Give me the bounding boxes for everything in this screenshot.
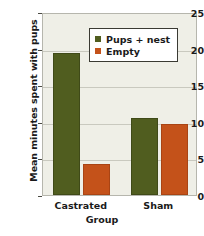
legend-label: Empty [106,46,140,57]
legend-label: Pups + nest [106,34,170,45]
x-category-label: Sham [143,200,173,211]
legend-item-empty: Empty [95,45,170,57]
legend-swatch-green-icon [95,36,101,42]
y-tick-mark [38,159,42,160]
y-tick-mark [38,50,42,51]
legend-swatch-orange-icon [95,48,101,54]
bar-chart: Mean minutes spent with pups 0510152025 … [0,0,204,236]
bar [131,118,158,195]
bar [83,164,110,195]
legend: Pups + nest Empty [89,28,178,62]
y-tick-label: 15 [166,81,204,92]
bar [53,53,80,195]
y-tick-label: 10 [166,117,204,128]
y-tick-mark [38,13,42,14]
legend-item-pups-nest: Pups + nest [95,33,170,45]
y-tick-mark [38,86,42,87]
y-tick-mark [38,123,42,124]
x-axis-title: Group [0,214,204,225]
y-tick-mark [38,196,42,197]
y-tick-label: 25 [166,8,204,19]
y-axis-title: Mean minutes spent with pups [28,11,39,191]
y-tick-label: 5 [166,154,204,165]
x-category-label: Castrated [55,200,107,211]
